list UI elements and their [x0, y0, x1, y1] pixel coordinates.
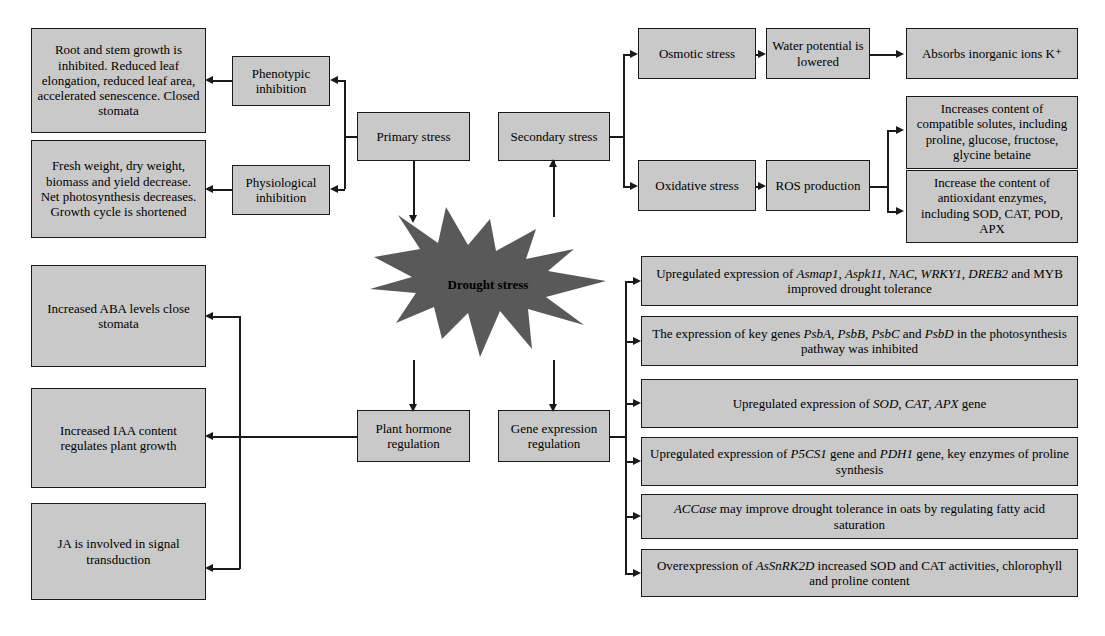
- arrow-to-aba-icon: [205, 312, 213, 320]
- phenotypic-effects-box: Root and stem growth is inhibited. Reduc…: [31, 28, 206, 133]
- connector-ros-vertical-down: [887, 186, 889, 212]
- arrow-burst-to-hormone-icon: [409, 404, 417, 412]
- gene-expression-regulation-text: Gene expression regulation: [504, 421, 604, 452]
- connector-burst-to-hormone: [413, 360, 415, 408]
- ros-production-box: ROS production: [766, 160, 870, 211]
- primary-stress-text: Primary stress: [363, 129, 464, 144]
- gene-effect-1-text: Upregulated expression of Asmap1, Aspk11…: [647, 266, 1072, 297]
- gene-effect-2-text: The expression of key genes PsbA, PsbB, …: [647, 326, 1072, 357]
- connector-primary-out: [344, 136, 358, 138]
- gene-effect-4-text: Upregulated expression of P5CS1 gene and…: [647, 446, 1072, 477]
- primary-stress-box: Primary stress: [357, 112, 470, 161]
- connector-hormone-out: [240, 436, 358, 438]
- arrow-into-physiological-inhibition-icon: [330, 185, 338, 193]
- connector-primary-to-physiological: [338, 189, 345, 191]
- connector-water-to-ions: [870, 54, 898, 56]
- phenotypic-inhibition-text: Phenotypic inhibition: [238, 66, 324, 97]
- arrow-to-ja-icon: [205, 564, 213, 572]
- secondary-stress-box: Secondary stress: [498, 112, 610, 161]
- water-potential-text: Water potential is lowered: [772, 38, 864, 69]
- arrow-osmotic-to-water-icon: [758, 50, 766, 58]
- gene-effect-4-box: Upregulated expression of P5CS1 gene and…: [641, 437, 1078, 486]
- connector-secondary-out: [610, 136, 624, 138]
- arrow-to-solutes-icon: [896, 126, 904, 134]
- connector-gene-out: [610, 436, 626, 438]
- absorbs-ions-text: Absorbs inorganic ions K⁺: [912, 46, 1072, 61]
- arrow-into-phenotypic-inhibition-icon: [330, 76, 338, 84]
- aba-effect-text: Increased ABA levels close stomata: [37, 301, 200, 332]
- connector-secondary-vertical-down: [623, 136, 625, 186]
- connector-ros-vertical-up: [887, 130, 889, 187]
- gene-effect-2-box: The expression of key genes PsbA, PsbB, …: [641, 316, 1078, 366]
- drought-stress-burst-shape: [368, 205, 608, 365]
- iaa-effect-text: Increased IAA content regulates plant gr…: [37, 423, 200, 454]
- arrow-to-physiological-effects-icon: [205, 185, 213, 193]
- physiological-inhibition-box: Physiological inhibition: [232, 165, 330, 215]
- arrow-to-iaa-icon: [205, 432, 213, 440]
- gene-expression-regulation-box: Gene expression regulation: [498, 410, 610, 462]
- gene-effect-1-box: Upregulated expression of Asmap1, Aspk11…: [641, 256, 1078, 306]
- gene-effect-6-text: Overexpression of AsSnRK2D increased SOD…: [647, 558, 1072, 589]
- phenotypic-inhibition-box: Phenotypic inhibition: [232, 56, 330, 106]
- arrow-to-gene-5-icon: [633, 512, 641, 520]
- osmotic-stress-box: Osmotic stress: [638, 28, 756, 79]
- connector-to-aba: [213, 316, 240, 318]
- connector-gene-bus-down: [625, 436, 627, 573]
- connector-gene-bus-up: [625, 281, 627, 437]
- connector-burst-to-gene: [553, 360, 555, 408]
- connector-hormone-bus-down: [239, 436, 241, 569]
- osmotic-stress-text: Osmotic stress: [644, 46, 750, 61]
- water-potential-box: Water potential is lowered: [766, 28, 870, 79]
- arrow-burst-to-secondary-icon: [549, 159, 557, 167]
- compatible-solutes-text: Increases content of compatible solutes,…: [912, 102, 1072, 162]
- antioxidant-enzymes-box: Increase the content of antioxidant enzy…: [906, 170, 1078, 243]
- antioxidant-enzymes-text: Increase the content of antioxidant enzy…: [912, 176, 1072, 236]
- compatible-solutes-box: Increases content of compatible solutes,…: [906, 96, 1078, 169]
- arrow-to-antioxidants-icon: [896, 207, 904, 215]
- connector-hormone-bus-up: [239, 316, 241, 437]
- gene-effect-6-box: Overexpression of AsSnRK2D increased SOD…: [641, 549, 1078, 597]
- connector-primary-vertical-up: [344, 80, 346, 137]
- arrow-to-osmotic-icon: [630, 50, 638, 58]
- physiological-effects-box: Fresh weight, dry weight, biomass and yi…: [31, 140, 206, 238]
- connector-phenotypic: [212, 80, 232, 82]
- ros-production-text: ROS production: [772, 178, 864, 193]
- absorbs-ions-box: Absorbs inorganic ions K⁺: [906, 28, 1078, 79]
- gene-effect-5-text: ACCase may improve drought tolerance in …: [647, 501, 1072, 532]
- arrow-to-gene-6-icon: [633, 569, 641, 577]
- aba-effect-box: Increased ABA levels close stomata: [31, 265, 206, 367]
- arrow-water-to-ions-icon: [896, 50, 904, 58]
- gene-effect-5-box: ACCase may improve drought tolerance in …: [641, 494, 1078, 539]
- secondary-stress-text: Secondary stress: [504, 129, 604, 144]
- arrow-to-gene-4-icon: [633, 457, 641, 465]
- connector-secondary-vertical-up: [623, 54, 625, 137]
- iaa-effect-box: Increased IAA content regulates plant gr…: [31, 388, 206, 488]
- plant-hormone-regulation-text: Plant hormone regulation: [363, 421, 464, 452]
- connector-ros-out: [870, 186, 888, 188]
- phenotypic-effects-text: Root and stem growth is inhibited. Reduc…: [37, 42, 200, 119]
- arrow-to-gene-1-icon: [633, 277, 641, 285]
- arrow-to-gene-2-icon: [633, 337, 641, 345]
- plant-hormone-regulation-box: Plant hormone regulation: [357, 410, 470, 462]
- arrow-burst-to-gene-icon: [549, 404, 557, 412]
- oxidative-stress-text: Oxidative stress: [644, 178, 750, 193]
- arrow-to-gene-3-icon: [633, 399, 641, 407]
- connector-primary-vertical-down: [344, 136, 346, 189]
- ja-effect-box: JA is involved in signal transduction: [31, 503, 206, 600]
- connector-to-iaa: [213, 436, 240, 438]
- physiological-inhibition-text: Physiological inhibition: [238, 175, 324, 206]
- ja-effect-text: JA is involved in signal transduction: [37, 536, 200, 567]
- diagram-canvas: Root and stem growth is inhibited. Reduc…: [0, 0, 1105, 636]
- physiological-effects-text: Fresh weight, dry weight, biomass and yi…: [37, 158, 200, 219]
- connector-physiological: [212, 189, 232, 191]
- connector-to-ja: [213, 568, 240, 570]
- gene-effect-3-box: Upregulated expression of SOD, CAT, APX …: [641, 379, 1078, 428]
- oxidative-stress-box: Oxidative stress: [638, 160, 756, 211]
- arrow-to-oxidative-icon: [630, 182, 638, 190]
- connector-primary-to-phenotypic: [338, 80, 345, 82]
- arrow-oxidative-to-ros-icon: [758, 182, 766, 190]
- arrow-to-phenotypic-effects-icon: [205, 76, 213, 84]
- gene-effect-3-text: Upregulated expression of SOD, CAT, APX …: [647, 396, 1072, 411]
